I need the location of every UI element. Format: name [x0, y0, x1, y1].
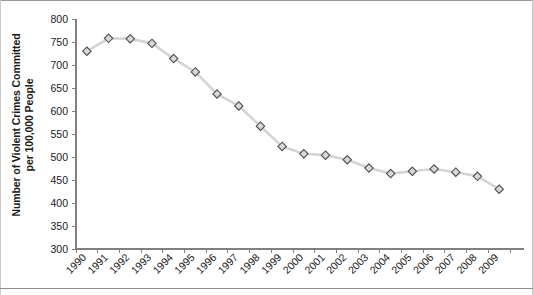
x-tick-label: 2006	[410, 251, 435, 276]
y-tick-label: 350	[50, 220, 68, 232]
y-axis-ticks: 300350400450500550600650700750800	[50, 13, 76, 255]
x-tick-label: 2005	[389, 251, 414, 276]
x-tick-label: 2002	[324, 251, 349, 276]
x-axis-labels: 1990199119921993199419951996199719981999…	[63, 251, 500, 276]
x-tick-label: 1991	[85, 251, 110, 276]
x-tick-label: 2000	[280, 251, 305, 276]
data-point-marker	[343, 156, 351, 164]
y-tick-label: 650	[50, 82, 68, 94]
x-tick-label: 1995	[172, 251, 197, 276]
data-series-line	[87, 38, 499, 189]
data-point-marker	[430, 165, 438, 173]
x-tick-label: 2003	[345, 251, 370, 276]
line-chart-plot: 300350400450500550600650700750800 199019…	[0, 0, 533, 295]
x-tick-label: 1998	[237, 251, 262, 276]
x-tick-label: 1997	[215, 251, 240, 276]
data-point-marker	[126, 35, 134, 43]
data-point-marker	[300, 150, 308, 158]
x-tick-label: 2001	[302, 251, 327, 276]
x-axis-ticks	[76, 249, 510, 253]
x-tick-label: 2008	[454, 251, 479, 276]
data-point-marker	[386, 169, 394, 177]
y-tick-label: 800	[50, 13, 68, 25]
data-point-marker	[365, 164, 373, 172]
x-tick-label: 1992	[107, 251, 132, 276]
x-tick-label: 2007	[432, 251, 457, 276]
y-tick-label: 550	[50, 128, 68, 140]
data-point-marker	[321, 151, 329, 159]
y-tick-label: 450	[50, 174, 68, 186]
x-tick-label: 1993	[128, 251, 153, 276]
x-tick-label: 2009	[476, 251, 501, 276]
x-tick-label: 2004	[367, 251, 392, 276]
data-point-marker	[408, 167, 416, 175]
y-tick-label: 400	[50, 197, 68, 209]
chart-figure: Number of Violent Crimes Committed per 1…	[0, 0, 533, 295]
x-tick-label: 1996	[193, 251, 218, 276]
y-tick-label: 600	[50, 105, 68, 117]
y-tick-label: 500	[50, 151, 68, 163]
x-tick-label: 1994	[150, 251, 175, 276]
y-tick-label: 700	[50, 59, 68, 71]
y-tick-label: 300	[50, 243, 68, 255]
data-point-marker	[452, 168, 460, 176]
y-tick-label: 750	[50, 36, 68, 48]
x-tick-label: 1999	[259, 251, 284, 276]
